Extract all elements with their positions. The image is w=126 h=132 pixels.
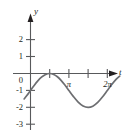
y-tick-label-1: 1 [12,52,23,61]
x-tick-label-2pi: 2π [99,80,116,89]
x-axis-arrowhead [109,70,118,76]
y-tick-label-neg2: -2 [8,103,23,112]
y-tick-label-2: 2 [12,35,23,44]
sine-curve-figure: y t 2 1 0 -1 -2 -3 π 2π [0,0,126,132]
x-tick-label-pi: π [63,80,75,89]
y-tick-label-neg1: -1 [8,86,23,95]
y-axis-label: y [34,7,38,16]
y-tick-label-neg3: -3 [8,120,23,129]
y-axis-arrowhead [28,14,34,23]
y-tick-label-0: 0 [12,76,23,85]
x-axis-label: t [119,68,122,77]
plot-canvas [0,0,126,132]
